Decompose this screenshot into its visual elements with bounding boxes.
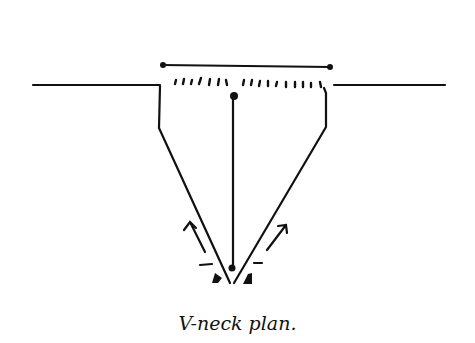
direction-arrow-left: [184, 222, 205, 252]
stitch-marks-row: [175, 78, 321, 87]
direction-arrow-right: [267, 225, 287, 250]
decrease-triangle-right: [243, 273, 252, 284]
figure-caption: V-neck plan.: [0, 312, 475, 334]
measure-bar-endpoint-left: [160, 62, 166, 68]
decrease-triangle-left: [212, 273, 222, 283]
center-line-top-dot: [230, 92, 238, 100]
decrease-mark-left: [200, 264, 212, 265]
center-line-bottom-dot: [229, 265, 236, 272]
measure-bar-endpoint-right: [327, 64, 333, 70]
neck-width-measure-bar: [162, 65, 330, 67]
v-neck-diagram: [0, 0, 475, 343]
neck-side-right: [234, 88, 326, 283]
neck-side-left: [159, 86, 230, 283]
